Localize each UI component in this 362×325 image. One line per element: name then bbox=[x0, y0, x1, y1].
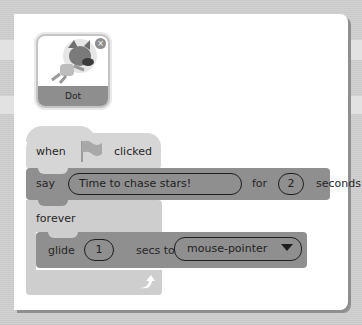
glide-to-block[interactable]: glide 1 secs to mouse-pointer bbox=[36, 232, 307, 268]
say-message-input[interactable]: Time to chase stars! bbox=[68, 173, 242, 195]
for-label: for bbox=[252, 177, 267, 191]
when-label: when bbox=[36, 145, 66, 159]
forever-block[interactable]: forever bbox=[26, 200, 162, 232]
forever-block-bottom bbox=[26, 270, 162, 295]
sprite-name-label: Dot bbox=[38, 86, 108, 106]
block-notch bbox=[48, 232, 78, 238]
block-notch bbox=[38, 200, 68, 206]
glide-label: glide bbox=[48, 244, 75, 258]
green-flag-icon bbox=[78, 139, 104, 163]
dropdown-arrow-icon bbox=[281, 244, 293, 251]
delete-sprite-icon[interactable]: × bbox=[95, 38, 106, 49]
glide-duration-input[interactable]: 1 bbox=[84, 239, 114, 261]
forever-label: forever bbox=[36, 212, 75, 226]
glide-target-value: mouse-pointer bbox=[187, 242, 267, 255]
glide-target-dropdown[interactable]: mouse-pointer bbox=[174, 237, 302, 261]
forever-block-arm bbox=[26, 230, 36, 272]
block-notch bbox=[38, 168, 68, 174]
secs-to-label: secs to bbox=[136, 244, 175, 258]
loop-arrow-icon bbox=[138, 274, 156, 290]
when-flag-clicked-block[interactable]: when clicked bbox=[26, 133, 161, 169]
say-label: say bbox=[36, 177, 55, 191]
clicked-label: clicked bbox=[114, 145, 152, 159]
say-for-seconds-block[interactable]: say Time to chase stars! for 2 seconds bbox=[26, 168, 330, 200]
seconds-label: seconds bbox=[316, 177, 361, 191]
say-duration-input[interactable]: 2 bbox=[278, 173, 304, 195]
